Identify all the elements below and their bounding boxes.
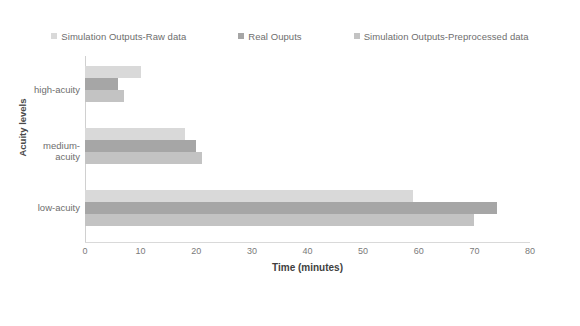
- chart-legend: Simulation Outputs-Raw data Real Ouputs …: [0, 28, 580, 44]
- bar-low-acuity-raw-data[interactable]: [85, 190, 413, 202]
- bar-group-low-acuity: [85, 190, 530, 228]
- x-tick-40: 40: [302, 246, 312, 256]
- y-axis-category-labels: high-acuity medium-acuity low-acuity: [8, 56, 80, 243]
- x-axis-line: [85, 242, 530, 243]
- bar-group-medium-acuity: [85, 128, 530, 166]
- x-tick-20: 20: [191, 246, 201, 256]
- legend-item-real-outputs[interactable]: Real Ouputs: [238, 31, 301, 42]
- y-axis-label-medium-acuity: medium-acuity: [10, 140, 80, 162]
- x-axis-ticks: 0 10 20 30 40 50 60 70 80: [85, 246, 530, 260]
- x-tick-0: 0: [82, 246, 87, 256]
- x-tick-70: 70: [469, 246, 479, 256]
- legend-item-raw-data[interactable]: Simulation Outputs-Raw data: [51, 31, 186, 42]
- bar-high-acuity-raw-data[interactable]: [85, 66, 141, 78]
- x-tick-50: 50: [358, 246, 368, 256]
- x-axis-title: Time (minutes): [85, 262, 530, 273]
- square-swatch-icon: [354, 33, 360, 39]
- bar-medium-acuity-real-outputs[interactable]: [85, 140, 196, 152]
- legend-item-preprocessed-data[interactable]: Simulation Outputs-Preprocessed data: [354, 31, 529, 42]
- legend-label: Simulation Outputs-Raw data: [61, 31, 186, 42]
- bar-medium-acuity-raw-data[interactable]: [85, 128, 185, 140]
- square-swatch-icon: [51, 33, 57, 39]
- bar-chart: Simulation Outputs-Raw data Real Ouputs …: [0, 0, 580, 326]
- x-tick-80: 80: [525, 246, 535, 256]
- y-axis-label-text: high-acuity: [34, 84, 80, 95]
- bar-medium-acuity-preprocessed-data[interactable]: [85, 152, 202, 164]
- bar-high-acuity-real-outputs[interactable]: [85, 78, 118, 90]
- y-axis-label-high-acuity: high-acuity: [10, 84, 80, 95]
- bar-low-acuity-preprocessed-data[interactable]: [85, 214, 474, 226]
- plot-area: [85, 56, 530, 243]
- legend-label: Simulation Outputs-Preprocessed data: [364, 31, 529, 42]
- y-axis-label-low-acuity: low-acuity: [10, 202, 80, 213]
- x-tick-60: 60: [414, 246, 424, 256]
- bar-group-high-acuity: [85, 66, 530, 104]
- square-swatch-icon: [238, 33, 244, 39]
- legend-label: Real Ouputs: [248, 31, 301, 42]
- x-tick-30: 30: [247, 246, 257, 256]
- bar-high-acuity-preprocessed-data[interactable]: [85, 90, 124, 102]
- y-axis-label-text: low-acuity: [38, 202, 80, 213]
- x-tick-10: 10: [136, 246, 146, 256]
- bar-low-acuity-real-outputs[interactable]: [85, 202, 497, 214]
